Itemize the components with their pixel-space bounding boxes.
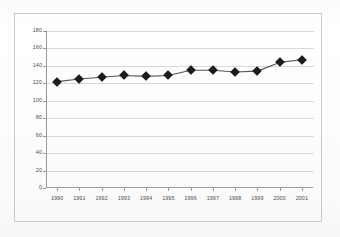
plot-area [46,31,313,188]
x-axis-tick-mark [146,188,147,191]
x-axis-tick-mark [280,188,281,191]
x-axis-tick-mark [213,188,214,191]
y-axis-tick-mark [43,188,46,189]
x-axis-tick-mark [102,188,103,191]
y-axis-tick-label: 0 [16,185,42,190]
y-axis-tick-label: 100 [16,98,42,103]
x-axis-tick-label: 2001 [289,196,315,201]
gridline [47,136,314,137]
x-axis-tick-mark [79,188,80,191]
x-axis-tick-mark [302,188,303,191]
y-axis-tick-label: 120 [16,80,42,85]
gridline [47,118,314,119]
y-axis-tick-label: 60 [16,133,42,138]
y-axis-tick-label: 140 [16,63,42,68]
y-axis-tick-label: 20 [16,168,42,173]
scanned-chart-image: 180160140120100806040200 199019911992199… [0,0,340,237]
y-axis-tick-label: 180 [16,28,42,33]
gridline [47,171,314,172]
chart-plot-wrapper: 180160140120100806040200 199019911992199… [0,0,340,237]
x-axis-tick-mark [235,188,236,191]
gridline [47,66,314,67]
x-axis-tick-mark [257,188,258,191]
x-axis-tick-mark [124,188,125,191]
gridline [47,48,314,49]
x-axis-tick-mark [168,188,169,191]
gridline [47,153,314,154]
gridline [47,101,314,102]
x-axis-tick-mark [191,188,192,191]
y-axis-tick-label: 40 [16,150,42,155]
y-axis-tick-label: 160 [16,45,42,50]
gridline [47,83,314,84]
gridline [47,31,314,32]
x-axis-tick-mark [57,188,58,191]
y-axis-tick-label: 80 [16,115,42,120]
